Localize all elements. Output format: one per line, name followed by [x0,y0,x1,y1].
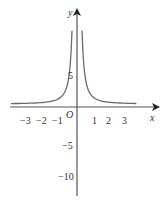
x-tick-label: 3 [122,115,127,126]
y-tick-label: 5 [68,70,73,81]
origin-label: O [66,109,73,120]
x-axis-label: x [149,112,155,123]
y-axis-label: y [67,7,73,18]
curve-left-branch [11,31,72,104]
y-tick-label: −5 [62,140,73,151]
x-tick-label: 2 [106,115,111,126]
y-tick-label: −10 [58,171,74,182]
curve-right-branch [82,31,136,104]
x-tick-label: 1 [92,115,97,126]
x-tick-label: −3 [20,115,31,126]
x-tick-label: −2 [36,115,47,126]
function-graph: y x O −3 −2 −1 1 2 3 5 −5 −10 [0,0,167,208]
x-tick-label: −1 [52,115,63,126]
